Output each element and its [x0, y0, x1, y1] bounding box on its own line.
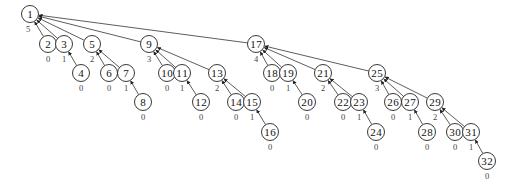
tree-node-8: 80: [135, 94, 152, 122]
tree-node-31: 311: [463, 124, 480, 152]
node-rank-label: 1: [180, 83, 184, 93]
tree-node-3: 31: [56, 36, 73, 64]
tree-node-10: 100: [159, 65, 176, 93]
edge-16-to-15: [257, 110, 266, 125]
tree-node-30: 300: [447, 124, 464, 152]
node-rank-label: 3: [375, 83, 379, 93]
tree-node-4: 40: [73, 65, 90, 93]
node-id-label: 15: [246, 96, 258, 108]
node-id-label: 20: [301, 96, 313, 108]
node-id-label: 23: [353, 96, 365, 108]
tree-node-11: 111: [174, 65, 191, 93]
node-id-label: 13: [211, 67, 223, 79]
node-rank-label: 1: [250, 112, 254, 122]
node-id-label: 19: [282, 67, 294, 79]
edge-14-to-13: [222, 81, 231, 95]
node-id-label: 7: [123, 67, 129, 79]
node-rank-label: 0: [141, 112, 145, 122]
node-rank-label: 0: [374, 142, 378, 152]
node-layer: 1520314052607180931001111201321401511601…: [22, 6, 496, 181]
node-rank-label: 1: [469, 142, 473, 152]
node-id-label: 21: [317, 67, 329, 79]
tree-node-20: 200: [299, 94, 316, 122]
edge-8-to-7: [131, 81, 139, 95]
tree-node-23: 231: [351, 94, 368, 122]
node-rank-label: 0: [305, 112, 309, 122]
node-id-label: 31: [465, 126, 477, 138]
tree-node-18: 180: [264, 65, 281, 93]
node-id-label: 2: [45, 38, 51, 50]
node-id-label: 11: [176, 67, 188, 79]
tree-node-14: 140: [228, 94, 245, 122]
node-rank-label: 0: [270, 83, 274, 93]
node-id-label: 28: [421, 126, 433, 138]
node-rank-label: 0: [107, 83, 111, 93]
node-rank-label: 0: [46, 54, 50, 64]
node-rank-label: 0: [341, 112, 345, 122]
node-id-label: 24: [370, 126, 382, 138]
node-id-label: 26: [387, 96, 399, 108]
node-id-label: 18: [266, 67, 278, 79]
tree-node-19: 191: [280, 65, 297, 93]
node-rank-label: 0: [391, 112, 395, 122]
node-id-label: 10: [161, 67, 173, 79]
node-rank-label: 5: [26, 24, 30, 34]
node-id-label: 14: [230, 96, 242, 108]
edge-30-to-29: [440, 110, 450, 125]
node-id-label: 3: [61, 38, 67, 50]
node-id-label: 12: [195, 96, 207, 108]
node-rank-label: 4: [254, 54, 259, 64]
edge-32-to-31: [475, 140, 483, 154]
node-id-label: 25: [371, 67, 383, 79]
node-id-label: 9: [146, 38, 152, 50]
node-rank-label: 0: [165, 83, 169, 93]
node-id-label: 32: [481, 155, 493, 167]
edge-28-to-27: [414, 110, 422, 125]
tree-node-2: 20: [40, 36, 57, 64]
tree-node-25: 253: [369, 65, 386, 93]
tree-node-1: 15: [22, 6, 39, 34]
tree-node-7: 71: [118, 65, 135, 93]
tree-node-12: 120: [193, 94, 210, 122]
tree-node-27: 271: [402, 94, 419, 122]
tree-node-9: 93: [141, 36, 158, 64]
edge-22-to-21: [328, 80, 338, 95]
node-rank-label: 1: [286, 83, 290, 93]
edge-24-to-23: [363, 110, 371, 125]
node-rank-label: 1: [62, 54, 66, 64]
node-id-label: 4: [78, 67, 84, 79]
node-id-label: 17: [250, 38, 262, 50]
node-rank-label: 2: [90, 54, 94, 64]
node-id-label: 5: [89, 38, 95, 50]
node-id-label: 22: [337, 96, 349, 108]
node-rank-label: 2: [433, 112, 437, 122]
node-rank-label: 1: [408, 112, 412, 122]
node-rank-label: 0: [79, 83, 83, 93]
edge-20-to-19: [293, 81, 302, 95]
edge-4-to-3: [69, 52, 77, 66]
node-id-label: 6: [106, 67, 112, 79]
node-rank-label: 0: [199, 112, 203, 122]
node-rank-label: 2: [215, 83, 219, 93]
node-id-label: 27: [404, 96, 416, 108]
tree-node-22: 220: [335, 94, 352, 122]
tree-node-6: 60: [101, 65, 118, 93]
node-rank-label: 0: [234, 112, 238, 122]
node-rank-label: 0: [453, 142, 457, 152]
node-rank-label: 3: [147, 54, 151, 64]
node-rank-label: 1: [357, 112, 361, 122]
tree-node-28: 280: [419, 124, 436, 152]
tree-node-24: 240: [368, 124, 385, 152]
edge-12-to-11: [187, 81, 196, 95]
node-id-label: 30: [449, 126, 461, 138]
tree-node-16: 160: [262, 124, 279, 152]
node-rank-label: 0: [268, 142, 272, 152]
node-id-label: 8: [140, 96, 146, 108]
tree-node-32: 320: [479, 153, 496, 181]
tree-node-29: 292: [427, 94, 444, 122]
node-id-label: 1: [27, 8, 33, 20]
tree-node-5: 52: [84, 36, 101, 64]
tree-node-15: 151: [244, 94, 261, 122]
tree-node-21: 212: [315, 65, 332, 93]
node-rank-label: 2: [321, 83, 325, 93]
